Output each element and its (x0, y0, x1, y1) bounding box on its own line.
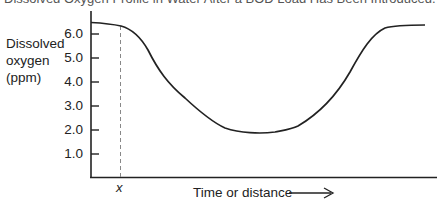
y-ticks (91, 34, 99, 154)
x-marker-label: x (116, 180, 123, 195)
do-curve (91, 23, 425, 133)
x-axis-label: Time or distance (193, 185, 292, 200)
chart-plot (0, 0, 446, 209)
